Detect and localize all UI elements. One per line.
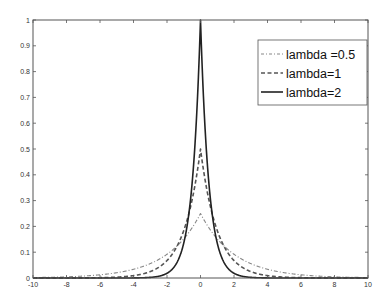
laplace-density-chart: -10-8-6-4-20246810 00.10.20.30.40.50.60.… (0, 0, 391, 303)
x-tick-label: 6 (299, 281, 303, 288)
legend-label-lambda-2: lambda=2 (286, 86, 341, 100)
y-tick-label: 0.3 (20, 197, 30, 204)
x-tick-label: 8 (333, 281, 337, 288)
x-tick-label: 10 (364, 281, 372, 288)
x-tick-label: -2 (164, 281, 170, 288)
legend: lambda =0.5 lambda=1 lambda=2 (258, 40, 367, 105)
y-tick-label: 0.9 (20, 42, 30, 49)
x-tick-label: 4 (266, 281, 270, 288)
x-tick-label: 2 (232, 281, 236, 288)
y-tick-label: 0.1 (20, 249, 30, 256)
y-tick-label: 0.2 (20, 223, 30, 230)
y-tick-label: 0.7 (20, 94, 30, 101)
legend-label-lambda-1: lambda=1 (286, 67, 341, 81)
y-tick-label: 1 (26, 17, 30, 24)
x-tick-label: -4 (130, 281, 136, 288)
x-tick-label: 0 (199, 281, 203, 288)
y-tick-label: 0.6 (20, 120, 30, 127)
y-tick-label: 0.4 (20, 171, 30, 178)
y-tick-label: 0.8 (20, 68, 30, 75)
y-tick-label: 0 (26, 275, 30, 282)
x-tick-label: -6 (97, 281, 103, 288)
x-tick-label: -8 (63, 281, 69, 288)
y-tick-label: 0.5 (20, 146, 30, 153)
x-tick-label: -10 (28, 281, 38, 288)
legend-label-lambda-0.5: lambda =0.5 (286, 48, 355, 62)
